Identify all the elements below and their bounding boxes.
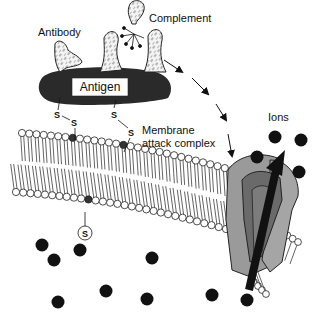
complement-protein-2: [128, 1, 144, 24]
bottom-lipid-head: [20, 189, 27, 196]
bottom-lipid-head: [193, 218, 200, 225]
bottom-lipid-head: [201, 220, 208, 227]
s-label-3: S: [111, 110, 117, 120]
bottom-lipid-head: [63, 193, 70, 200]
complement-label: Complement: [149, 12, 211, 24]
ion: [251, 151, 264, 164]
top-lipid-head: [214, 163, 221, 170]
s-label-1: S: [54, 110, 60, 120]
s-label-5: S: [82, 229, 88, 239]
s-label-4: S: [128, 128, 134, 138]
antibody: [55, 41, 82, 72]
ion: [293, 166, 306, 179]
mac-diagram: Antigen S S S S: [0, 0, 319, 314]
bottom-lipid-head: [164, 211, 171, 218]
ion: [48, 254, 61, 267]
bottom-lipid-head: [85, 196, 92, 203]
bottom-lipid-head: [128, 203, 135, 210]
ion: [241, 294, 254, 307]
ion: [52, 296, 65, 309]
bottom-lipid-head: [150, 207, 157, 214]
top-lipid-head: [84, 136, 91, 143]
ion: [146, 252, 159, 265]
bottom-lipid-head: [114, 200, 121, 207]
top-lipid-head: [26, 130, 33, 137]
top-lipid-head: [47, 132, 54, 139]
top-lipid-head: [221, 164, 228, 171]
mac-label-line1: Membrane: [142, 124, 195, 136]
complement-protein-3: [144, 30, 166, 72]
bottom-lipid-head: [215, 223, 222, 230]
top-lipid-head: [62, 133, 69, 140]
ions-label: Ions: [268, 111, 289, 123]
bottom-lipid-head: [172, 212, 179, 219]
right-bottom-lipid-head: [263, 291, 270, 298]
complement-protein-1: [100, 32, 122, 72]
s-label-2: S: [71, 118, 77, 128]
top-lipid-head: [91, 137, 98, 144]
bottom-lipid-head: [121, 202, 128, 209]
top-lipid-head: [98, 138, 105, 145]
bottom-lipid-head: [136, 204, 143, 211]
bottom-lipid-head: [49, 192, 56, 199]
top-lipid-head: [40, 131, 47, 138]
bottom-lipid-head: [92, 197, 99, 204]
top-lipid-head: [192, 157, 199, 164]
bottom-lipid-head: [34, 190, 41, 197]
right-top-lipid-head: [295, 239, 302, 246]
top-lipid-head: [170, 152, 177, 159]
top-lipid-head: [127, 143, 134, 150]
bottom-lipid-head: [12, 188, 19, 195]
ion: [74, 244, 87, 257]
bottom-lipid-head: [208, 222, 215, 229]
top-lipid-head: [199, 159, 206, 166]
top-lipid-head: [156, 148, 163, 155]
disulfide-bonds: S S S S S: [54, 98, 134, 240]
top-lipid-head: [18, 129, 25, 136]
top-lipid-head: [76, 135, 83, 142]
antigen-label: Antigen: [80, 80, 121, 94]
top-lipid-head: [178, 153, 185, 160]
ion: [36, 239, 49, 252]
bottom-lipid-head: [157, 209, 164, 216]
bottom-lipid-head: [70, 194, 77, 201]
top-lipid-head: [163, 150, 170, 157]
complement-spokes: [121, 27, 145, 50]
ion: [269, 131, 282, 144]
ion: [206, 289, 219, 302]
top-lipid-head: [207, 161, 214, 168]
top-lipid-head: [185, 155, 192, 162]
bottom-lipid-head: [41, 191, 48, 198]
bottom-lipid-head: [179, 214, 186, 221]
ion: [141, 293, 154, 306]
top-lipid-head: [55, 133, 62, 140]
ion: [100, 285, 113, 298]
top-lipid-head: [134, 144, 141, 151]
bottom-lipid-head: [27, 190, 34, 197]
bottom-lipid-head: [186, 216, 193, 223]
bottom-lipid-head: [107, 199, 114, 206]
mac-label-line2: attack complex: [142, 137, 216, 149]
bottom-lipid-head: [56, 192, 63, 199]
bottom-lipid-head: [143, 206, 150, 213]
top-lipid-head: [105, 139, 112, 146]
bottom-lipid-head: [78, 195, 85, 202]
bottom-lipid-head: [99, 198, 106, 205]
top-lipid-head: [113, 140, 120, 147]
antibody-label: Antibody: [38, 26, 81, 38]
top-lipid-head: [33, 131, 40, 138]
ion: [295, 134, 308, 147]
